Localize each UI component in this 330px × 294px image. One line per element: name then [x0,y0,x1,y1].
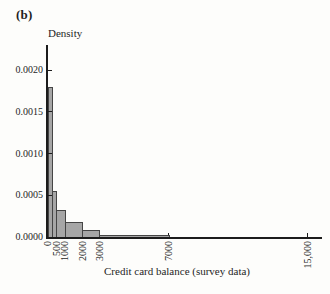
x-axis-title: Credit card balance (survey data) [104,265,250,277]
y-tick-mark [48,237,52,238]
plot-area: 0.00000.00050.00100.00150.00200500100020… [0,0,330,294]
y-axis-line [46,45,48,239]
y-tick-mark [48,70,52,71]
histogram-bar [65,222,83,238]
y-tick-mark [48,153,52,154]
x-tick-label: 7000 [163,241,174,261]
y-tick-label: 0.0020 [3,64,43,76]
y-tick-mark [48,111,52,112]
x-axis-line [46,237,322,239]
histogram-figure: (b) Density 0.00000.00050.00100.00150.00… [0,0,330,294]
y-tick-mark [48,195,52,196]
x-tick-label: 3000 [94,241,105,261]
y-tick-label: 0.0005 [3,189,43,201]
x-tick-label: 1000 [59,241,70,261]
x-tick-label: 2000 [77,241,88,261]
x-tick-label: 15,000 [302,241,313,269]
y-tick-label: 0.0010 [3,148,43,160]
y-tick-label: 0.0000 [3,231,43,243]
y-tick-label: 0.0015 [3,106,43,118]
